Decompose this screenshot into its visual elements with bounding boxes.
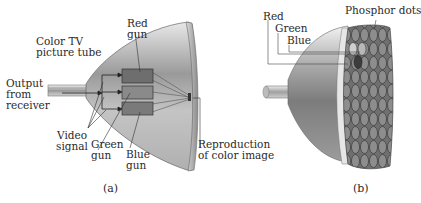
label-blue: Blue xyxy=(287,35,311,46)
label-picture-tube-2: picture tube xyxy=(36,47,101,58)
red-gun xyxy=(122,69,153,83)
caption-b: (b) xyxy=(353,182,369,195)
label-output-3: receiver xyxy=(6,100,50,111)
green-gun xyxy=(122,86,153,99)
caption-a: (a) xyxy=(103,182,118,195)
tube-a-neck xyxy=(48,85,88,96)
green-dot xyxy=(358,43,366,56)
label-red-gun-2: gun xyxy=(127,29,147,40)
label-green: Green xyxy=(275,23,308,34)
blue-gun xyxy=(122,102,153,115)
label-phosphor-dots: Phosphor dots xyxy=(345,5,421,16)
tube-b xyxy=(263,20,393,169)
label-green-gun-2: gun xyxy=(91,150,111,161)
label-video-2: signal xyxy=(56,141,88,152)
label-blue-gun-2: gun xyxy=(126,160,146,171)
image-spot xyxy=(188,93,191,101)
label-reproduction-2: of color image xyxy=(198,150,274,161)
blue-dot xyxy=(354,56,362,69)
label-red: Red xyxy=(263,11,284,22)
red-dot xyxy=(349,43,357,56)
